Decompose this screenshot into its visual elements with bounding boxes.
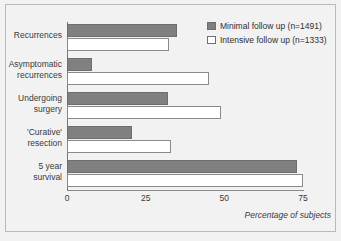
bar-intensive — [67, 38, 169, 51]
bar-intensive — [67, 174, 303, 187]
category-label-line: recurrences — [0, 70, 62, 81]
category-label-line: Undergoing — [0, 93, 62, 104]
bar-minimal — [67, 126, 132, 139]
legend-swatch-intensive-icon — [207, 36, 216, 44]
x-axis-tick-label: 0 — [47, 193, 87, 203]
chart-legend: Minimal follow up (n=1491) Intensive fol… — [207, 20, 327, 48]
category-label-line: Asymptomatic — [0, 59, 62, 70]
category-label: 5 yearsurvival — [0, 161, 62, 182]
bar-group — [67, 160, 303, 192]
legend-label-intensive: Intensive follow up (n=1333) — [220, 35, 327, 45]
bar-intensive — [67, 106, 221, 119]
category-label-line: 'Curative' — [0, 127, 62, 138]
x-axis-tick-label: 50 — [204, 193, 244, 203]
bar-minimal — [67, 58, 92, 71]
bar-intensive — [67, 140, 171, 153]
category-label-line: 5 year — [0, 161, 62, 172]
x-axis-tick-label: 75 — [283, 193, 323, 203]
x-axis-tick-label: 25 — [126, 193, 166, 203]
bar-minimal — [67, 160, 297, 173]
legend-item-intensive: Intensive follow up (n=1333) — [207, 34, 327, 46]
legend-swatch-minimal-icon — [207, 22, 216, 30]
category-label: Undergoingsurgery — [0, 93, 62, 114]
category-label: 'Curative'resection — [0, 127, 62, 148]
bar-minimal — [67, 24, 177, 37]
bar-group — [67, 92, 303, 124]
x-axis-caption: Percentage of subjects — [245, 210, 331, 220]
bar-group — [67, 58, 303, 90]
legend-item-minimal: Minimal follow up (n=1491) — [207, 20, 327, 32]
bar-intensive — [67, 72, 209, 85]
bar-group — [67, 126, 303, 158]
bar-minimal — [67, 92, 168, 105]
category-label: Recurrences — [0, 30, 62, 41]
legend-label-minimal: Minimal follow up (n=1491) — [220, 21, 322, 31]
category-label-line: Recurrences — [0, 30, 62, 41]
category-label-line: resection — [0, 138, 62, 149]
chart-figure: RecurrencesAsymptomaticrecurrencesUnderg… — [0, 0, 341, 241]
category-label-line: surgery — [0, 104, 62, 115]
category-label: Asymptomaticrecurrences — [0, 59, 62, 80]
category-label-line: survival — [0, 172, 62, 183]
